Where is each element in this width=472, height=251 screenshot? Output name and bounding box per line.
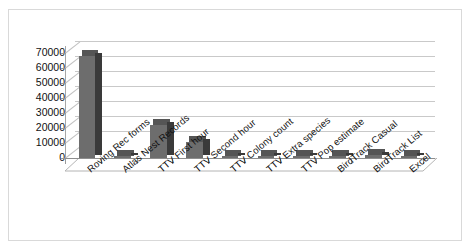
x-axis-category-label: TTV Second hour	[192, 117, 258, 175]
x-axis-category-label: Roving Rec forms	[85, 116, 152, 174]
x-axis-category-label: TTV Colony count	[228, 116, 295, 175]
chart-frame: 010000200003000040000500006000070000 Rov…	[8, 9, 462, 241]
x-axis-category-label: Excel	[407, 151, 432, 175]
chart-plot-area: 010000200003000040000500006000070000 Rov…	[9, 10, 463, 242]
x-axis-labels: Roving Rec formsAtlas Nest RecordsTTV Fi…	[9, 10, 463, 242]
x-axis-category-label: TTV Pop estimate	[299, 116, 366, 175]
